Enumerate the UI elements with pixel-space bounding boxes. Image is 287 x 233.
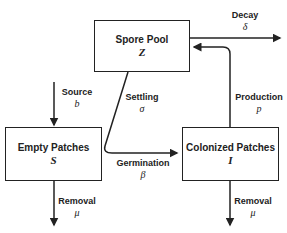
flow-name: Settling bbox=[122, 92, 162, 103]
node-title: Colonized Patches bbox=[186, 142, 275, 154]
node-title: Empty Patches bbox=[18, 142, 90, 154]
decay-label: Decay δ bbox=[215, 10, 275, 32]
flow-symbol: p bbox=[231, 103, 287, 114]
node-symbol: Z bbox=[139, 46, 146, 59]
flow-symbol: δ bbox=[215, 21, 275, 32]
node-symbol: S bbox=[50, 154, 56, 167]
flow-symbol: μ bbox=[57, 207, 97, 218]
node-title: Spore Pool bbox=[116, 34, 169, 46]
removal-empty-label: Removal μ bbox=[57, 196, 97, 218]
production-label: Production p bbox=[231, 92, 287, 114]
flow-name: Removal bbox=[57, 196, 97, 207]
germination-label: Germination β bbox=[113, 158, 173, 180]
settling-label: Settling σ bbox=[122, 92, 162, 114]
flow-name: Decay bbox=[215, 10, 275, 21]
flow-name: Removal bbox=[233, 196, 273, 207]
flow-symbol: σ bbox=[122, 103, 162, 114]
flow-symbol: b bbox=[57, 98, 97, 109]
flow-symbol: β bbox=[113, 169, 173, 180]
source-label: Source b bbox=[57, 87, 97, 109]
flow-name: Germination bbox=[113, 158, 173, 169]
removal-colonized-label: Removal μ bbox=[233, 196, 273, 218]
spore-pool-node: Spore Pool Z bbox=[94, 20, 190, 72]
flow-symbol: μ bbox=[233, 207, 273, 218]
node-symbol: I bbox=[228, 154, 232, 167]
colonized-patches-node: Colonized Patches I bbox=[182, 127, 279, 181]
flow-name: Production bbox=[231, 92, 287, 103]
flow-name: Source bbox=[57, 87, 97, 98]
empty-patches-node: Empty Patches S bbox=[5, 127, 102, 181]
